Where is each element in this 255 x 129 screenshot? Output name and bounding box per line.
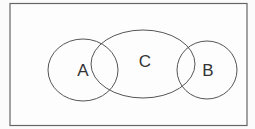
- venn-diagram: A C B: [0, 0, 255, 129]
- set-b-label: B: [202, 61, 213, 80]
- set-c-label: C: [139, 52, 151, 71]
- set-a-label: A: [77, 61, 89, 80]
